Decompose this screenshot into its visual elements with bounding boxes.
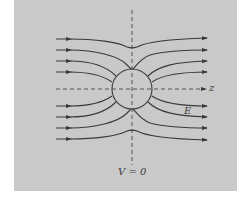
field-line [133,50,207,69]
field-line [56,102,116,117]
arrow-icon [66,37,72,41]
field-line [152,72,207,82]
field-label: E [184,106,191,116]
field-line [56,72,112,82]
potential-label: V = 0 [118,167,146,177]
arrow-icon [66,126,72,130]
arrow-icon [66,48,72,52]
arrow-icon [66,104,72,108]
field-line [56,96,112,106]
z-axis-arrow-icon [201,87,207,91]
arrow-icon [66,115,72,119]
arrow-icon [66,70,72,74]
arrow-icon [66,137,72,141]
z-axis-label: z [209,83,214,93]
field-line [56,61,116,76]
arrow-icon [66,59,72,63]
field-line [133,109,207,128]
field-line [152,96,207,106]
